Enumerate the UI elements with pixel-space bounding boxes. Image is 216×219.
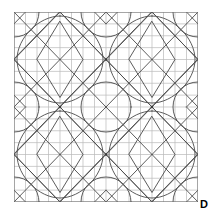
geometric-tiling-diagram xyxy=(14,12,198,202)
figure-root: D xyxy=(0,0,216,219)
panel-label: D xyxy=(200,198,208,210)
